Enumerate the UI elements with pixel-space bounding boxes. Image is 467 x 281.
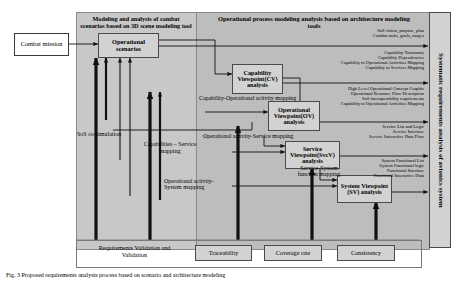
bottom-item-coverage-rate[interactable]: Coverage rate	[264, 245, 322, 261]
output-group-2-item-3: Capability to Services Mapping	[280, 65, 424, 70]
output-group-5-item-3: Functional Interactive Data	[320, 173, 424, 178]
output-group-3: High Level Operational Concept Graphic O…	[280, 86, 424, 106]
edge-label-operational-activity-service: Operational activity-Service mapping	[203, 133, 315, 139]
edge-label-sos-cosimulation: SoS co-simulation	[77, 131, 157, 137]
output-group-1-item-1: Combat tasks, goals, ranges	[300, 33, 424, 38]
output-group-4-item-2: Service Interactive Data Flow	[320, 134, 424, 139]
connector-layer	[0, 0, 467, 281]
figure-canvas: Modeling and analysis of combat scenario…	[0, 0, 467, 281]
output-group-4: Service List and Logic Service Interface…	[320, 124, 424, 139]
output-group-1: SoS vision, purpose, plan Combat tasks, …	[300, 28, 424, 38]
bottom-item-consistency[interactable]: Consistency	[337, 245, 395, 261]
edge-label-operational-activity-system: Operational activity-System mapping	[164, 178, 226, 191]
output-group-2: Capability Taxonomy Capability Dependenc…	[280, 50, 424, 70]
output-group-5: System Functional List System Functional…	[320, 158, 424, 178]
bottom-item-requirements-validation: Requirements Validation and Validation	[86, 245, 183, 258]
node-capability-viewpoint[interactable]: Capability Viewpoint(CV) analysis	[232, 64, 283, 94]
node-system-viewpoint[interactable]: System Viewpoint (SV) analysis	[337, 175, 392, 203]
bottom-item-traceability[interactable]: Traceability	[195, 245, 252, 261]
edge-label-capabilities-service: Capabilities – Service mapping	[138, 138, 202, 157]
node-operational-scenarios[interactable]: Operational scenarios	[98, 33, 159, 58]
node-combat-mission[interactable]: Combat mission	[14, 33, 69, 56]
output-group-3-item-3: Capability to Operational Activities Map…	[280, 101, 424, 106]
figure-caption: Fig. 3 Proposed requirements analysis pr…	[6, 272, 461, 279]
